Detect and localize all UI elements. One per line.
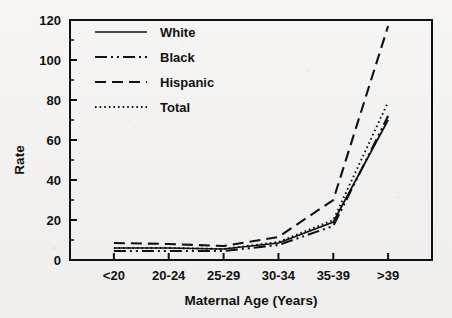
series-line-white <box>114 120 388 249</box>
x-tick-label: 35-39 <box>317 268 350 283</box>
y-tick-label: 0 <box>54 253 61 268</box>
y-tick-label: 40 <box>47 173 61 188</box>
legend-label-total: Total <box>160 100 190 115</box>
y-tick-label: 20 <box>47 213 61 228</box>
y-tick-label: 80 <box>47 93 61 108</box>
y-axis-tick-labels: 020406080100120 <box>39 13 61 268</box>
y-tick-label: 120 <box>39 13 61 28</box>
x-tick-label: <20 <box>103 268 125 283</box>
x-tick-label: 20-24 <box>152 268 186 283</box>
data-series-group <box>114 26 388 251</box>
x-axis-tick-labels: <2020-2425-2930-3435-39>39 <box>103 268 399 283</box>
y-axis-ticks <box>70 20 77 260</box>
x-tick-label: >39 <box>377 268 399 283</box>
series-line-black <box>114 116 388 251</box>
legend-label-black: Black <box>160 50 195 65</box>
legend-label-hispanic: Hispanic <box>160 75 214 90</box>
chart-legend: WhiteBlackHispanicTotal <box>95 25 214 115</box>
x-tick-label: 25-29 <box>207 268 240 283</box>
chart-svg: 020406080100120 <2020-2425-2930-3435-39>… <box>0 0 452 318</box>
y-tick-label: 100 <box>39 53 61 68</box>
x-axis-title: Maternal Age (Years) <box>184 293 317 308</box>
legend-label-white: White <box>160 25 195 40</box>
series-line-total <box>114 102 388 249</box>
line-chart-figure: 020406080100120 <2020-2425-2930-3435-39>… <box>0 0 452 318</box>
x-axis-ticks <box>114 253 388 260</box>
series-line-hispanic <box>114 26 388 246</box>
y-tick-label: 60 <box>47 133 61 148</box>
x-tick-label: 30-34 <box>262 268 296 283</box>
y-axis-title: Rate <box>12 145 27 175</box>
